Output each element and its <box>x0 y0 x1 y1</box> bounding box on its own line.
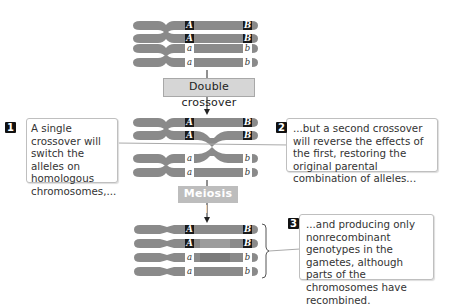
allele-label-b: b <box>243 154 252 163</box>
allele-label-A: A <box>185 118 194 127</box>
allele-label-B: B <box>243 225 252 234</box>
callout-3-text: ...and producing only nonrecombinant gen… <box>306 218 415 306</box>
double-crossover-label: Double crossover <box>163 78 255 97</box>
allele-label-a: a <box>185 168 194 177</box>
allele-label-B: B <box>243 131 252 140</box>
allele-label-a: a <box>185 154 194 163</box>
stage3-chromatids <box>134 225 258 276</box>
allele-label-A: A <box>185 225 194 234</box>
callout-1: 1 A single crossover will switch the all… <box>26 118 118 183</box>
callout-3: 3 ...and producing only nonrecombinant g… <box>299 214 434 280</box>
stage1-chromosomes <box>133 21 258 67</box>
allele-label-B: B <box>243 34 252 43</box>
step-number-badge: 3 <box>288 218 299 229</box>
meiosis-ii-label: Meiosis II <box>178 186 238 203</box>
allele-label-a: a <box>185 44 194 53</box>
allele-label-A: A <box>185 131 194 140</box>
allele-label-A: A <box>185 34 194 43</box>
allele-label-B: B <box>243 118 252 127</box>
allele-label-b: b <box>243 253 252 262</box>
allele-label-b: b <box>243 58 252 67</box>
callout-1-text: A single crossover will switch the allel… <box>31 122 116 197</box>
allele-label-a: a <box>185 267 194 276</box>
stage2-chromosomes <box>133 118 258 177</box>
callout-2-text: ...but a second crossover will reverse t… <box>293 122 423 184</box>
allele-label-A: A <box>185 21 194 30</box>
allele-label-b: b <box>243 44 252 53</box>
allele-label-A: A <box>185 239 194 248</box>
callout-2: 2 ...but a second crossover will reverse… <box>286 118 438 172</box>
allele-label-B: B <box>243 239 252 248</box>
allele-label-b: b <box>243 168 252 177</box>
allele-label-a: a <box>185 58 194 67</box>
step-number-badge: 1 <box>5 122 16 133</box>
allele-label-a: a <box>185 253 194 262</box>
allele-label-B: B <box>243 21 252 30</box>
allele-label-b: b <box>243 267 252 276</box>
step-number-badge: 2 <box>276 122 287 133</box>
